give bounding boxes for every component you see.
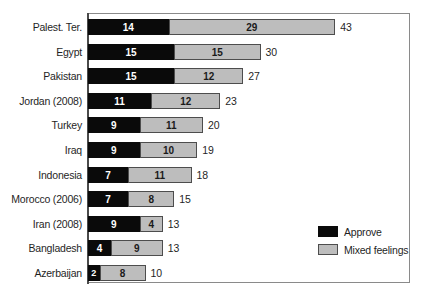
bar-track: 711 [88, 167, 192, 183]
bar-row: Morocco (2006)7815 [0, 191, 437, 207]
category-label: Iraq [0, 142, 82, 158]
bar-track: 910 [88, 142, 197, 158]
row-total-value: 20 [208, 117, 220, 133]
bar-segment-approve: 9 [88, 142, 140, 158]
bar-row: Palest. Ter.142943 [0, 19, 437, 35]
legend-item: Approve [318, 224, 404, 239]
category-label: Morocco (2006) [0, 191, 82, 207]
bar-row: Egypt151530 [0, 44, 437, 60]
row-total-value: 15 [179, 191, 191, 207]
bar-segment-mixed-feelings: 11 [128, 167, 191, 183]
category-label: Jordan (2008) [0, 93, 82, 109]
bar-segment-approve: 7 [88, 191, 128, 207]
category-label: Egypt [0, 44, 82, 60]
bar-track: 94 [88, 216, 163, 232]
bar-track: 1515 [88, 44, 261, 60]
bar-row: Jordan (2008)111223 [0, 93, 437, 109]
bar-segment-approve: 7 [88, 167, 128, 183]
legend-swatch-mixed-icon [318, 244, 338, 255]
legend-item: Mixed feelings [318, 242, 404, 257]
bar-segment-mixed-feelings: 12 [174, 68, 243, 84]
bar-track: 78 [88, 191, 174, 207]
legend-label: Mixed feelings [344, 244, 408, 256]
bar-segment-mixed-feelings: 15 [174, 44, 260, 60]
category-label: Bangladesh [0, 240, 82, 256]
bar-segment-approve: 2 [88, 265, 100, 281]
bar-segment-approve: 15 [88, 44, 174, 60]
bar-segment-approve: 9 [88, 216, 140, 232]
bar-track: 1112 [88, 93, 220, 109]
row-total-value: 13 [168, 240, 180, 256]
bar-row: Iraq91019 [0, 142, 437, 158]
row-total-value: 10 [151, 265, 163, 281]
row-total-value: 23 [225, 93, 237, 109]
bar-track: 28 [88, 265, 146, 281]
bar-row: Azerbaijan2810 [0, 265, 437, 281]
row-total-value: 30 [266, 44, 278, 60]
bar-track: 1429 [88, 19, 335, 35]
row-total-value: 13 [168, 216, 180, 232]
bar-row: Pakistan151227 [0, 68, 437, 84]
row-total-value: 19 [202, 142, 214, 158]
bar-segment-approve: 9 [88, 117, 140, 133]
category-label: Palest. Ter. [0, 19, 82, 35]
bar-segment-mixed-feelings: 8 [128, 191, 174, 207]
row-total-value: 43 [340, 19, 352, 35]
legend-swatch-approve-icon [318, 226, 338, 237]
category-label: Iran (2008) [0, 216, 82, 232]
bar-track: 49 [88, 240, 163, 256]
bar-segment-approve: 14 [88, 19, 169, 35]
bar-segment-mixed-feelings: 8 [100, 265, 146, 281]
bar-segment-mixed-feelings: 29 [169, 19, 336, 35]
category-label: Turkey [0, 117, 82, 133]
bar-segment-mixed-feelings: 4 [140, 216, 163, 232]
stacked-bar-chart: Palest. Ter.142943Egypt151530Pakistan151… [0, 0, 437, 300]
bar-segment-approve: 11 [88, 93, 151, 109]
category-label: Azerbaijan [0, 265, 82, 281]
bar-track: 911 [88, 117, 203, 133]
bar-segment-mixed-feelings: 9 [111, 240, 163, 256]
legend-label: Approve [344, 226, 382, 238]
row-total-value: 27 [248, 68, 260, 84]
row-total-value: 18 [197, 167, 209, 183]
bar-segment-approve: 15 [88, 68, 174, 84]
category-label: Pakistan [0, 68, 82, 84]
bar-track: 1512 [88, 68, 243, 84]
bar-row: Indonesia71118 [0, 167, 437, 183]
bar-row: Turkey91120 [0, 117, 437, 133]
chart-legend: ApproveMixed feelings [318, 224, 404, 260]
category-label: Indonesia [0, 167, 82, 183]
bar-segment-mixed-feelings: 12 [151, 93, 220, 109]
bar-segment-mixed-feelings: 11 [140, 117, 203, 133]
bar-segment-approve: 4 [88, 240, 111, 256]
bar-segment-mixed-feelings: 10 [140, 142, 198, 158]
